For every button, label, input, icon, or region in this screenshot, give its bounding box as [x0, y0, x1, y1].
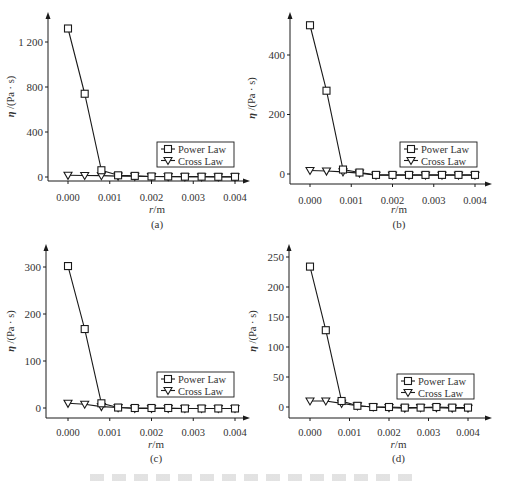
x-tick-label: 0.002: [377, 427, 401, 438]
square-marker: [215, 405, 222, 412]
y-tick-label: 50: [273, 371, 285, 383]
square-marker: [165, 173, 172, 180]
square-marker: [181, 405, 188, 412]
y-tick-label: 250: [268, 251, 285, 263]
square-marker: [322, 327, 329, 334]
x-tick-label: 0.000: [56, 427, 80, 438]
square-marker: [340, 166, 347, 173]
chart-panel-d: 0501001502002500.0000.0010.0020.0030.004…: [247, 244, 492, 465]
y-axis-arrow-icon: [46, 12, 51, 19]
legend-label: Cross Law: [178, 386, 224, 397]
y-axis-label: η /(Pa · s): [5, 310, 17, 352]
x-axis-label: r/m: [148, 438, 164, 450]
y-axis-label: η /(Pa · s): [246, 77, 258, 119]
square-marker: [215, 173, 222, 180]
square-marker: [307, 22, 314, 29]
y-tick-label: 1 200: [18, 36, 43, 48]
square-marker: [405, 378, 412, 385]
square-marker: [433, 404, 440, 411]
square-marker: [98, 167, 105, 174]
square-marker: [408, 146, 415, 153]
chart-panel-b: 02004000.0000.0010.0020.0030.004r/mη /(P…: [246, 12, 492, 231]
chart-panel-a: 04008001 2000.0000.0010.0020.0030.004r/m…: [5, 12, 250, 231]
legend-label: Cross Law: [418, 388, 464, 399]
square-marker: [472, 171, 479, 178]
legend: Power LawCross Law: [157, 142, 234, 167]
legend-label: Power Law: [421, 144, 470, 155]
square-marker: [356, 169, 363, 176]
square-marker: [338, 398, 345, 405]
y-tick-label: 400: [269, 49, 286, 61]
x-tick-label: 0.004: [223, 427, 247, 438]
legend-label: Power Law: [178, 144, 227, 155]
square-marker: [131, 172, 138, 179]
y-axis-label: η /(Pa · s): [247, 310, 259, 352]
square-marker: [465, 404, 472, 411]
panel-label: (b): [393, 218, 406, 231]
legend-label: Cross Law: [178, 156, 224, 167]
y-tick-label: 0: [38, 171, 44, 183]
x-tick-label: 0.001: [339, 195, 363, 206]
square-marker: [455, 171, 462, 178]
square-marker: [232, 173, 239, 180]
y-tick-label: 300: [25, 261, 42, 273]
square-marker: [165, 376, 172, 383]
square-marker: [354, 402, 361, 409]
y-axis-label: η /(Pa · s): [5, 75, 17, 117]
x-axis-label: r/m: [391, 203, 407, 215]
x-tick-label: 0.004: [223, 192, 247, 203]
chart-panel-c: 01002003000.0000.0010.0020.0030.004r/mη …: [5, 244, 250, 465]
x-axis-arrow-icon: [243, 179, 250, 184]
square-marker: [307, 263, 314, 270]
y-axis-arrow-icon: [288, 12, 293, 19]
square-marker: [65, 263, 72, 270]
y-tick-label: 150: [268, 311, 285, 323]
square-marker: [198, 173, 205, 180]
y-tick-label: 0: [280, 168, 286, 180]
chart-canvas: 04008001 2000.0000.0010.0020.0030.004r/m…: [0, 0, 506, 481]
x-tick-label: 0.001: [338, 427, 362, 438]
square-marker: [165, 405, 172, 412]
x-tick-label: 0.002: [140, 192, 164, 203]
square-marker: [115, 404, 122, 411]
square-marker: [181, 173, 188, 180]
square-marker: [386, 404, 393, 411]
legend-label: Cross Law: [421, 156, 467, 167]
square-marker: [406, 171, 413, 178]
square-marker: [401, 404, 408, 411]
figure: 04008001 2000.0000.0010.0020.0030.004r/m…: [0, 0, 506, 481]
y-axis-arrow-icon: [287, 244, 292, 251]
y-tick-label: 0: [279, 401, 285, 413]
x-tick-label: 0.003: [422, 195, 446, 206]
x-axis-arrow-icon: [485, 182, 492, 187]
x-tick-label: 0.000: [56, 192, 80, 203]
y-tick-label: 800: [27, 81, 44, 93]
panel-label: (a): [151, 218, 164, 231]
x-axis-label: r/m: [391, 438, 407, 450]
square-marker: [131, 405, 138, 412]
x-tick-label: 0.000: [298, 427, 322, 438]
legend-label: Power Law: [178, 374, 227, 385]
x-tick-label: 0.001: [98, 192, 122, 203]
y-tick-label: 0: [36, 402, 42, 414]
legend: Power LawCross Law: [157, 372, 234, 397]
x-tick-label: 0.001: [98, 427, 122, 438]
square-marker: [422, 171, 429, 178]
square-marker: [115, 172, 122, 179]
y-tick-label: 400: [27, 126, 44, 138]
legend: Power LawCross Law: [400, 142, 477, 167]
square-marker: [198, 405, 205, 412]
x-tick-label: 0.002: [140, 427, 164, 438]
legend: Power LawCross Law: [397, 374, 474, 399]
y-tick-label: 100: [25, 355, 42, 367]
square-marker: [373, 171, 380, 178]
square-marker: [232, 405, 239, 412]
x-tick-label: 0.000: [298, 195, 322, 206]
legend-label: Power Law: [418, 376, 467, 387]
square-marker: [439, 171, 446, 178]
square-marker: [389, 171, 396, 178]
square-marker: [417, 404, 424, 411]
square-marker: [165, 146, 172, 153]
panel-label: (c): [150, 452, 163, 465]
figure-caption-cutoff: [90, 474, 420, 481]
